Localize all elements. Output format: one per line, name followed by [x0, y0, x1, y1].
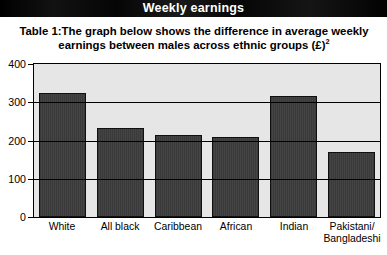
- bar[interactable]: [155, 135, 202, 217]
- caption-label: Table 1:: [19, 25, 61, 37]
- x-tick-label: Indian: [265, 221, 323, 246]
- gridline: [34, 102, 380, 103]
- y-tick-label: 0: [20, 212, 26, 222]
- bar[interactable]: [328, 152, 375, 217]
- bar[interactable]: [270, 96, 317, 217]
- gridline: [34, 179, 380, 180]
- x-axis-labels: WhiteAll blackCaribbeanAfricanIndianPaki…: [33, 221, 381, 246]
- caption-footnote-marker: 2: [326, 37, 330, 46]
- y-tick-label: 200: [8, 136, 26, 146]
- x-tick-label: Caribbean: [149, 221, 207, 246]
- bar[interactable]: [39, 93, 86, 217]
- table-caption: Table 1:The graph below shows the differ…: [14, 24, 374, 52]
- y-tick-label: 100: [8, 174, 26, 184]
- gridline: [34, 141, 380, 142]
- page-title-bar: Weekly earnings: [0, 0, 387, 17]
- x-tick-label: Pakistani/ Bangladeshi: [323, 221, 381, 246]
- bar-chart: 0100200300400 WhiteAll blackCaribbeanAfr…: [0, 57, 387, 255]
- y-tick-label: 400: [8, 59, 26, 69]
- plot-area: [33, 63, 381, 218]
- page-title: Weekly earnings: [0, 1, 387, 16]
- caption-line-2: earnings between males across ethnic gro…: [58, 39, 325, 51]
- x-tick-label: White: [33, 221, 91, 246]
- x-tick-label: African: [207, 221, 265, 246]
- bar[interactable]: [212, 137, 259, 217]
- y-tick-label: 300: [8, 97, 26, 107]
- caption-line-1: The graph below shows the difference in …: [62, 25, 369, 37]
- y-axis: 0100200300400: [0, 57, 33, 224]
- x-tick-label: All black: [91, 221, 149, 246]
